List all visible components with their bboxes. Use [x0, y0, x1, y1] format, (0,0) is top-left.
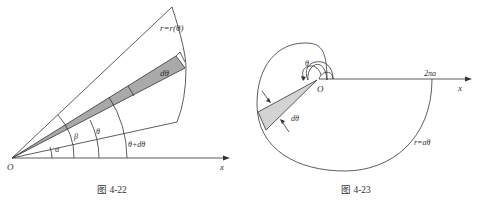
caption-figure-4-22: 图 4-22 — [97, 185, 127, 195]
arc-alpha — [50, 147, 52, 158]
label-theta-plus: θ+dθ — [128, 140, 145, 149]
label-intercept: 2πa — [424, 69, 436, 78]
label-origin: O — [7, 162, 14, 172]
x-axis-arrow-icon — [223, 156, 230, 161]
figure-canvas: r=r(θ) dθ α β θ θ+dθ O x 图 4-22 θ O 2πa … — [0, 0, 477, 201]
label-d-theta-2: dθ — [291, 114, 299, 123]
d-theta-arrowhead-upper-icon — [266, 98, 271, 103]
ray-alpha — [12, 122, 177, 158]
label-theta-2: θ — [305, 59, 309, 68]
figure-4-23 — [257, 43, 472, 171]
label-theta: θ — [96, 127, 100, 136]
label-curve-r-a-theta: r=aθ — [414, 138, 431, 147]
label-origin-2: O — [317, 84, 324, 94]
sector-d-theta-2 — [258, 80, 317, 130]
label-x-axis-2: x — [457, 83, 462, 93]
theta-arrow-icon — [301, 76, 306, 81]
caption-figure-4-23: 图 4-23 — [341, 185, 371, 195]
figure-4-22 — [12, 7, 230, 161]
label-alpha: α — [55, 145, 60, 154]
x-axis-arrow-icon-2 — [465, 77, 472, 82]
label-beta: β — [73, 132, 78, 141]
label-curve-r-theta: r=r(θ) — [160, 23, 184, 33]
label-x-axis: x — [219, 162, 224, 172]
label-d-theta: dθ — [160, 68, 170, 78]
d-theta-arrowhead-lower-icon — [280, 119, 285, 124]
